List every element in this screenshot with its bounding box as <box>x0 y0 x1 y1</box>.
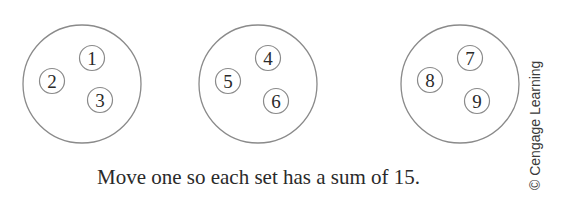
set-2-item-1[interactable]: 4 <box>256 46 281 71</box>
set-2: 4 5 6 <box>199 25 317 143</box>
instruction-caption: Move one so each set has a sum of 15. <box>0 165 517 190</box>
set-3-item-2[interactable]: 8 <box>418 68 443 93</box>
svg-text:8: 8 <box>425 70 435 91</box>
set-1-item-3[interactable]: 3 <box>88 88 113 113</box>
set-1-item-2[interactable]: 2 <box>40 69 65 94</box>
svg-text:2: 2 <box>47 71 57 92</box>
svg-text:7: 7 <box>465 48 475 69</box>
set-2-item-2[interactable]: 5 <box>216 69 241 94</box>
svg-text:9: 9 <box>472 91 482 112</box>
svg-text:1: 1 <box>87 48 97 69</box>
set-1: 1 2 3 <box>23 25 141 143</box>
copyright-credit: © Cengage Learning <box>527 61 543 190</box>
set-2-item-3[interactable]: 6 <box>264 89 289 114</box>
set-3: 7 8 9 <box>401 25 519 143</box>
svg-text:5: 5 <box>223 71 233 92</box>
svg-text:3: 3 <box>95 90 105 111</box>
svg-text:6: 6 <box>271 91 281 112</box>
svg-text:4: 4 <box>263 48 273 69</box>
set-1-item-1[interactable]: 1 <box>80 46 105 71</box>
set-3-item-1[interactable]: 7 <box>458 46 483 71</box>
set-3-item-3[interactable]: 9 <box>465 89 490 114</box>
